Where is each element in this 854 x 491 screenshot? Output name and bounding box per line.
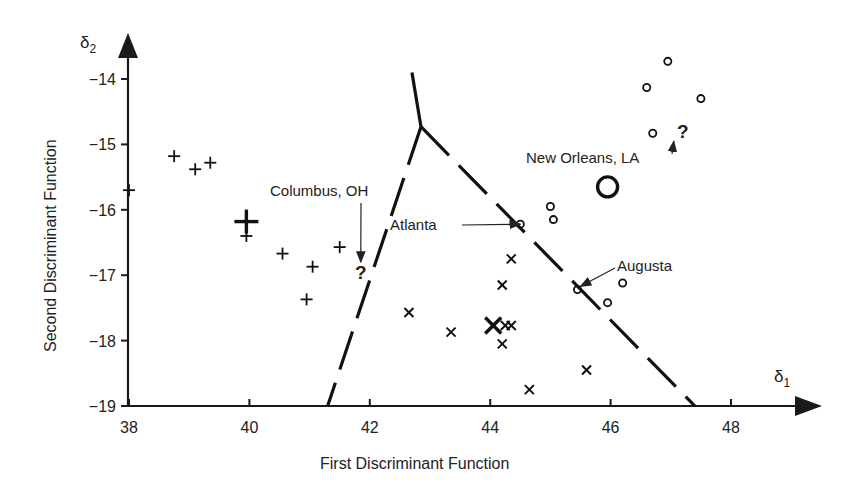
annotation-label: Augusta [617,257,673,274]
plus-marker-icon [277,248,289,260]
x-axis-label: First Discriminant Function [320,455,509,472]
circle-marker-icon [697,95,704,102]
circle-marker-icon [604,299,611,306]
y-tick-label: −19 [89,398,116,415]
annotation-arrow-icon [462,224,520,225]
circle-marker-icon [550,216,557,223]
annotations: Columbus, OHNew Orleans, LAAtlantaAugust… [270,141,674,286]
annotation-label: Columbus, OH [270,182,368,199]
x-marker-icon [498,339,507,348]
y-tick-label: −16 [89,202,116,219]
y-ticks: −14−15−16−17−18−19 [89,71,128,415]
x-tick-label: 42 [361,419,379,436]
centroid-circle-icon [598,177,618,197]
boundary-line [328,127,421,406]
plus-marker-icon [334,241,346,253]
y-axis-symbol: δ2 [80,33,96,56]
circle-marker-icon [547,203,554,210]
plus-marker-icon [204,157,216,169]
circle-marker-icon [643,84,650,91]
x-tick-label: 38 [120,419,138,436]
plus-marker-icon [123,184,135,196]
y-tick-label: −17 [89,267,116,284]
x-marker-icon [507,254,516,263]
annotation-label: New Orleans, LA [526,149,639,166]
circle-marker-icon [619,279,626,286]
plus-marker-icon [189,163,201,175]
circle-marker-icon [649,130,656,137]
x-ticks: 384042444648 [120,399,740,436]
y-axis-label: Second Discriminant Function [42,139,59,352]
decision-boundaries [328,72,695,406]
circle-marker-icon [664,58,671,65]
discriminant-scatter-chart: 384042444648 −14−15−16−17−18−19 δ2 δ1 Fi… [0,0,854,491]
x-marker-icon [582,366,591,375]
annotation-label: Atlanta [390,216,437,233]
y-tick-label: −18 [89,333,116,350]
x-marker-icon [404,308,413,317]
plus-marker-icon [301,293,313,305]
x-axis-arrow-icon [795,396,822,416]
unknown-city-marker: ? [677,121,689,142]
x-marker-icon [507,321,516,330]
y-tick-label: −15 [89,136,116,153]
x-tick-label: 46 [602,419,620,436]
x-tick-label: 48 [722,419,740,436]
unknown-city-marker: ? [355,262,367,283]
y-tick-label: −14 [89,71,116,88]
boundary-line [412,72,421,126]
centroid-plus-icon [234,210,258,234]
centroid-x-icon [485,318,501,334]
x-tick-label: 40 [241,419,259,436]
annotation-arrow-icon [581,268,616,286]
plus-marker-icon [307,261,319,273]
x-tick-label: 44 [481,419,499,436]
x-marker-icon [447,328,456,337]
annotation-arrow-icon [672,141,674,154]
x-marker-icon [498,281,507,290]
plus-marker-icon [168,150,180,162]
y-axis-arrow-icon [118,33,138,58]
x-axis-symbol: δ1 [774,367,790,390]
x-marker-icon [525,385,534,394]
